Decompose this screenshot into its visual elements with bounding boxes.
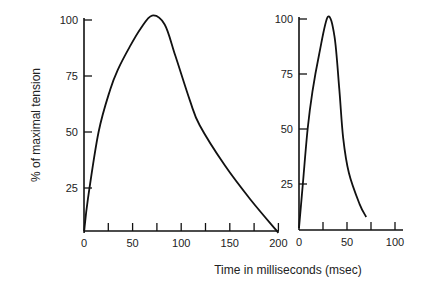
twitch-tension-chart: 255075100050100150200 255075100050100 % …	[0, 0, 423, 291]
series-line-fast-twitch	[299, 16, 366, 228]
y-axis-title: % of maximal tension	[29, 68, 43, 182]
y-tick-label: 50	[281, 123, 293, 135]
y-tick-label: 100	[275, 13, 293, 25]
y-tick-label: 75	[281, 68, 293, 80]
x-tick-label: 200	[269, 237, 287, 249]
right-panel: 255075100050100	[275, 13, 405, 248]
left-panel: 255075100050100150200	[60, 14, 288, 249]
y-tick-label: 25	[66, 182, 78, 194]
x-axis-title: Time in milliseconds (msec)	[214, 263, 362, 277]
series-line-slow-twitch	[84, 15, 278, 232]
y-tick-label: 50	[66, 126, 78, 138]
y-tick-label: 100	[60, 14, 78, 26]
x-tick-label: 0	[296, 236, 302, 248]
x-tick-label: 0	[81, 237, 87, 249]
y-tick-label: 25	[281, 178, 293, 190]
x-tick-label: 150	[221, 237, 239, 249]
x-tick-label: 50	[341, 236, 353, 248]
y-tick-label: 75	[66, 70, 78, 82]
x-tick-label: 100	[386, 236, 404, 248]
x-tick-label: 100	[172, 237, 190, 249]
x-tick-label: 50	[126, 237, 138, 249]
